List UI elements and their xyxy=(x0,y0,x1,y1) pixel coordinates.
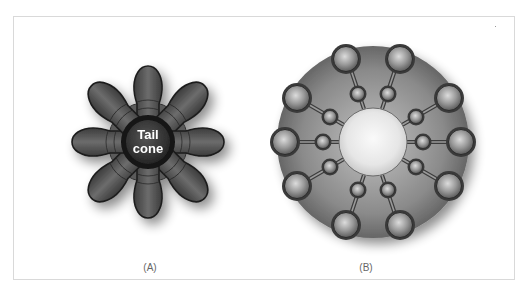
lobe xyxy=(134,162,162,218)
tail-cone-label-line2: cone xyxy=(133,141,163,156)
figure-canvas: Tail cone xyxy=(0,0,528,296)
caption-panel-a: (A) xyxy=(130,262,170,273)
tail-cone-label-line1: Tail xyxy=(137,127,158,142)
lobe xyxy=(134,66,162,122)
lobe xyxy=(72,128,128,156)
panel-a-diagram: Tail cone xyxy=(72,66,224,218)
center-opening xyxy=(339,108,407,176)
panel-b-diagram xyxy=(270,44,476,240)
caption-panel-b: (B) xyxy=(346,262,386,273)
lobe xyxy=(168,128,224,156)
